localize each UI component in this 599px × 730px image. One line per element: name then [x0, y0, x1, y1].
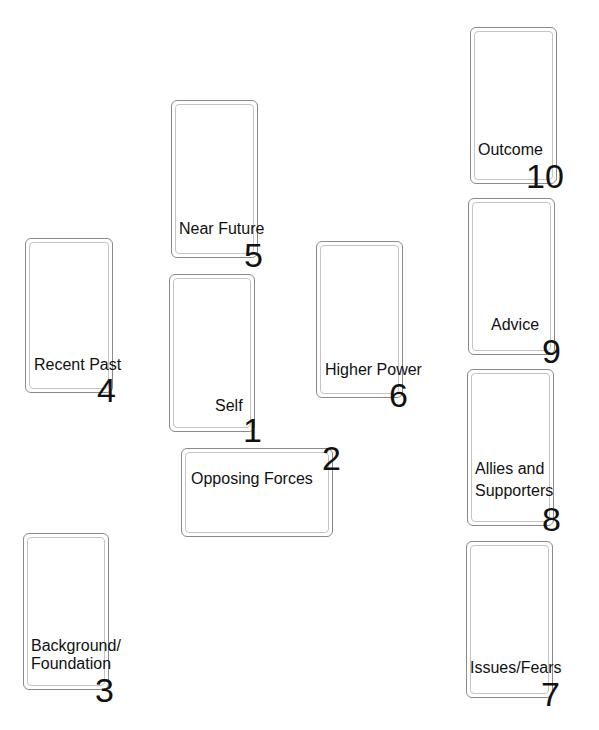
card-number-4: 4 — [97, 373, 116, 407]
card-allies-supporters[interactable] — [467, 369, 554, 526]
card-number-9: 9 — [542, 334, 561, 368]
card-number-3: 3 — [95, 673, 114, 707]
card-label-opposing-forces: Opposing Forces — [191, 470, 313, 488]
card-label-self: Self — [215, 397, 243, 415]
card-number-1: 1 — [243, 413, 262, 447]
card-number-8: 8 — [542, 502, 561, 536]
card-number-6: 6 — [389, 378, 408, 412]
card-number-2: 2 — [322, 441, 341, 475]
card-label-advice: Advice — [491, 316, 539, 334]
card-number-7: 7 — [541, 677, 560, 711]
card-label-allies-line2: Supporters — [475, 482, 553, 500]
card-label-allies-line1: Allies and — [475, 460, 544, 478]
card-label-background-line1: Background/ — [31, 637, 121, 655]
card-number-10: 10 — [526, 159, 564, 193]
card-opposing-forces[interactable] — [181, 448, 333, 537]
card-number-5: 5 — [244, 238, 263, 272]
